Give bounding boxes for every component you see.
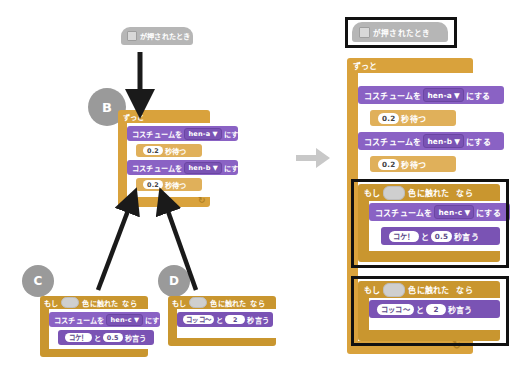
switch-costume-prefix: コスチュームを <box>364 90 421 101</box>
chevron-down-icon: ▼ <box>454 137 460 146</box>
if-header[interactable]: もし 色に触れた なら <box>168 296 276 309</box>
left-c-say-block[interactable]: コケ！ と 0.5 秒言う <box>58 330 154 345</box>
wait-value[interactable]: 0.2 <box>378 113 399 124</box>
badge-d-label: D <box>169 274 179 288</box>
left-switch-costume-b[interactable]: コスチュームを hen-b ▼ にする <box>127 160 238 175</box>
left-wait-block-1[interactable]: 0.2 秒待つ <box>136 144 202 157</box>
say-message[interactable]: コケ！ <box>65 333 92 342</box>
loop-arrow-icon: ↻ <box>198 195 206 205</box>
left-hat-block[interactable]: が押されたとき <box>121 27 193 45</box>
costume-dropdown[interactable]: hen-a ▼ <box>184 128 221 140</box>
costume-value: hen-b <box>188 164 210 172</box>
left-d-say-block[interactable]: コッコ〜 と 2 秒言う <box>177 312 273 327</box>
if-prefix: もし <box>44 298 58 308</box>
costume-value: hen-a <box>188 130 210 138</box>
say-seconds[interactable]: 2 <box>225 315 245 324</box>
forever-header[interactable]: ずっと <box>118 110 210 123</box>
if-footer <box>40 349 148 357</box>
badge-b-label: B <box>102 100 112 115</box>
say-message[interactable]: コッコ〜 <box>183 315 214 324</box>
switch-costume-suffix: にする <box>145 315 167 325</box>
switch-costume-prefix: コスチュームを <box>132 129 182 139</box>
if-spine <box>168 309 177 338</box>
right-switch-costume-b[interactable]: コスチュームを hen-b ▼ にする <box>358 132 504 150</box>
chevron-down-icon: ▼ <box>454 91 460 100</box>
wait-value[interactable]: 0.2 <box>378 159 399 170</box>
switch-costume-prefix: コスチュームを <box>54 315 104 325</box>
left-wait-block-2[interactable]: 0.2 秒待つ <box>136 178 202 191</box>
say-joiner: と <box>94 333 101 343</box>
color-picker-swatch[interactable] <box>189 297 207 308</box>
wait-value[interactable]: 0.2 <box>143 146 163 155</box>
switch-costume-suffix: にする <box>466 136 491 147</box>
forever-spine <box>118 123 127 197</box>
costume-dropdown[interactable]: hen-b ▼ <box>423 134 464 148</box>
right-arrow-icon <box>296 148 330 168</box>
if-prefix: もし <box>172 298 186 308</box>
costume-dropdown[interactable]: hen-b ▼ <box>184 162 222 174</box>
left-c-switch-costume[interactable]: コスチュームを hen-c ▼ にする <box>49 312 160 327</box>
color-picker-swatch[interactable] <box>61 297 79 308</box>
forever-header[interactable]: ずっと <box>347 58 473 73</box>
highlight-if-block-2 <box>351 276 509 346</box>
wait-suffix: 秒待つ <box>401 159 426 170</box>
costume-value: hen-c <box>110 316 132 324</box>
wait-suffix: 秒待つ <box>165 146 187 156</box>
costume-dropdown[interactable]: hen-c ▼ <box>106 314 143 326</box>
right-wait-block-2[interactable]: 0.2 秒待つ <box>370 156 456 172</box>
wait-suffix: 秒待つ <box>165 180 187 190</box>
if-suffix: なら <box>250 298 264 308</box>
if-suffix: なら <box>122 298 136 308</box>
highlight-if-block-1 <box>351 179 509 268</box>
if-header[interactable]: もし 色に触れた なら <box>40 296 148 309</box>
touching-color-label: 色に触れた <box>210 298 246 308</box>
switch-costume-prefix: コスチュームを <box>364 136 421 147</box>
diagram-canvas: が押されたとき B ずっと ↻ コスチュームを hen-a ▼ にする 0.2 … <box>0 0 528 381</box>
right-wait-block-1[interactable]: 0.2 秒待つ <box>370 110 456 126</box>
left-switch-costume-a[interactable]: コスチュームを hen-a ▼ にする <box>127 126 238 141</box>
forever-footer <box>118 197 210 207</box>
say-seconds[interactable]: 0.5 <box>103 333 123 342</box>
touching-color-label: 色に触れた <box>82 298 118 308</box>
switch-costume-suffix: にする <box>224 129 246 139</box>
left-forever-block[interactable]: ずっと ↻ <box>118 110 210 207</box>
costume-value: hen-a <box>427 91 452 100</box>
wait-value[interactable]: 0.2 <box>143 180 163 189</box>
hat-block-label: が押されたとき <box>140 31 190 41</box>
highlight-hat-block <box>345 17 457 48</box>
if-footer <box>168 338 276 346</box>
if-spine <box>40 309 49 349</box>
badge-c: C <box>22 265 54 297</box>
say-suffix: 秒言う <box>247 315 269 325</box>
forever-label: ずっと <box>353 60 378 71</box>
arrow-c-to-loop <box>98 200 132 290</box>
costume-value: hen-b <box>427 137 452 146</box>
costume-dropdown[interactable]: hen-a ▼ <box>423 88 463 102</box>
switch-costume-prefix: コスチュームを <box>132 163 182 173</box>
cropped-header-strip <box>0 0 528 12</box>
right-switch-costume-a[interactable]: コスチュームを hen-a ▼ にする <box>358 86 504 104</box>
chevron-down-icon: ▼ <box>134 316 139 324</box>
chevron-down-icon: ▼ <box>213 164 218 172</box>
say-suffix: 秒言う <box>125 333 147 343</box>
say-joiner: と <box>216 315 223 325</box>
wait-suffix: 秒待つ <box>401 113 426 124</box>
badge-d: D <box>158 265 190 297</box>
badge-c-label: C <box>34 274 43 288</box>
chevron-down-icon: ▼ <box>212 130 217 138</box>
switch-costume-suffix: にする <box>466 90 491 101</box>
forever-label: ずっと <box>123 112 145 122</box>
green-flag-icon <box>127 31 137 41</box>
switch-costume-suffix: にする <box>224 163 246 173</box>
